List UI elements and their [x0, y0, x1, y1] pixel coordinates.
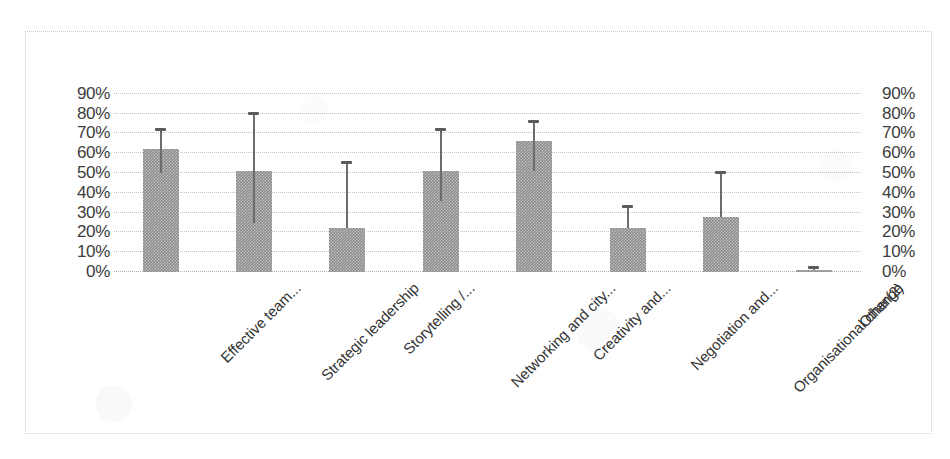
tick-label-0pct: 0% — [48, 263, 110, 280]
gridline-20 — [114, 231, 861, 232]
error-bar-cap — [808, 266, 819, 269]
bar[interactable] — [703, 217, 739, 272]
tick-label-60pct: 60% — [882, 144, 944, 161]
bar-group[interactable] — [703, 84, 739, 272]
tick-label-30pct: 30% — [48, 204, 110, 221]
tick-label-80pct: 80% — [882, 105, 944, 122]
error-bar-cap — [155, 128, 166, 131]
tick-label-70pct: 70% — [882, 124, 944, 141]
bar-group[interactable] — [329, 84, 365, 272]
tick-label-80pct: 80% — [48, 105, 110, 122]
tick-label-0pct: 0% — [882, 263, 944, 280]
tick-label-50pct: 50% — [48, 164, 110, 181]
gridline-30 — [114, 212, 861, 213]
error-bar — [440, 130, 442, 201]
tick-label-20pct: 20% — [882, 223, 944, 240]
tick-label-30pct: 30% — [882, 204, 944, 221]
error-bar-cap — [341, 161, 352, 164]
y-axis-right: 0%10%20%30%40%50%60%70%80%90% — [882, 84, 944, 272]
gridline-40 — [114, 192, 861, 193]
tick-label-10pct: 10% — [48, 243, 110, 260]
chart-container: 0%10%20%30%40%50%60%70%80%90% 0%10%20%30… — [0, 0, 950, 459]
plot-area — [114, 84, 861, 272]
gridline-60 — [114, 152, 861, 153]
category-label: Negotiation and... — [687, 280, 780, 373]
y-axis-left: 0%10%20%30%40%50%60%70%80%90% — [48, 84, 110, 272]
error-bar — [253, 114, 255, 223]
gridline-80 — [114, 113, 861, 114]
error-bar — [160, 130, 162, 174]
tick-label-50pct: 50% — [882, 164, 944, 181]
x-axis-category-labels: Effective team...Strategic leadershipSto… — [114, 272, 861, 432]
tick-label-40pct: 40% — [48, 184, 110, 201]
gridline-70 — [114, 132, 861, 133]
error-bar-cap — [715, 171, 726, 174]
gridline-10 — [114, 251, 861, 252]
tick-label-90pct: 90% — [882, 85, 944, 102]
gridline-90 — [114, 93, 861, 94]
error-bar — [346, 163, 348, 228]
error-bar — [720, 173, 722, 217]
chart-frame: 0%10%20%30%40%50%60%70%80%90% 0%10%20%30… — [25, 31, 932, 434]
category-label: Networking and city... — [508, 280, 618, 390]
error-bar-cap — [435, 128, 446, 131]
gridline-50 — [114, 172, 861, 173]
tick-label-10pct: 10% — [882, 243, 944, 260]
bar-group[interactable] — [423, 84, 459, 272]
bar-group[interactable] — [236, 84, 272, 272]
bar[interactable] — [329, 228, 365, 272]
bar-group[interactable] — [516, 84, 552, 272]
category-label: Strategic leadership — [318, 280, 422, 384]
tick-label-60pct: 60% — [48, 144, 110, 161]
error-bar-cap — [248, 112, 259, 115]
error-bar — [627, 207, 629, 229]
bar-group[interactable] — [796, 84, 832, 272]
error-bar — [533, 122, 535, 171]
error-bar-cap — [528, 120, 539, 123]
bar-group[interactable] — [610, 84, 646, 272]
category-label: Effective team... — [218, 280, 304, 366]
tick-label-90pct: 90% — [48, 85, 110, 102]
category-label: Other(2) — [856, 280, 906, 330]
tick-label-70pct: 70% — [48, 124, 110, 141]
tick-label-20pct: 20% — [48, 223, 110, 240]
tick-label-40pct: 40% — [882, 184, 944, 201]
error-bar-cap — [622, 205, 633, 208]
bar-group[interactable] — [143, 84, 179, 272]
bar[interactable] — [610, 228, 646, 272]
